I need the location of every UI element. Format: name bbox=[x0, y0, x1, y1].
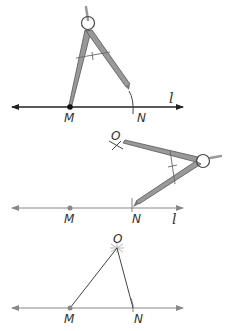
compass-icon bbox=[123, 140, 221, 207]
compass-icon bbox=[69, 7, 130, 105]
label-m: M bbox=[64, 212, 75, 226]
point-m bbox=[68, 206, 73, 211]
panel-step-1: M N l bbox=[12, 7, 183, 125]
label-o: O bbox=[113, 232, 122, 246]
segment-mo bbox=[70, 248, 117, 308]
label-n: N bbox=[134, 312, 143, 326]
panel-step-3: O M N bbox=[12, 232, 183, 326]
label-m: M bbox=[64, 111, 75, 125]
label-m: M bbox=[64, 312, 75, 326]
arc-at-n bbox=[129, 91, 133, 114]
label-o: O bbox=[111, 129, 120, 143]
label-line-l: l bbox=[169, 90, 173, 106]
point-m bbox=[67, 104, 73, 110]
panel-step-2: O M N l bbox=[12, 129, 221, 227]
label-n: N bbox=[137, 111, 146, 125]
label-n: N bbox=[132, 212, 141, 226]
segment-on bbox=[117, 248, 133, 308]
construction-diagram: M N l O bbox=[0, 0, 238, 331]
label-line-l: l bbox=[172, 211, 176, 227]
point-m bbox=[68, 306, 73, 311]
